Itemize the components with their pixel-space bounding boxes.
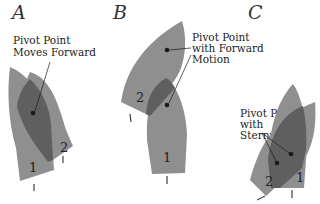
boat-label: 2 [136, 90, 144, 105]
caption-line: Motion [192, 53, 230, 65]
panel-letter: A [10, 1, 26, 23]
pivot-point-diagram: A Pivot Point Moves Forward 1 2 B Pivot … [0, 0, 320, 204]
panel-letter: B [112, 1, 127, 23]
caption-line: Moves Forward [13, 46, 96, 58]
boat-label: 1 [296, 170, 304, 185]
pivot-point-dot [31, 111, 36, 116]
boat-label: 2 [60, 140, 68, 155]
boat-label: 2 [265, 174, 273, 189]
pivot-point-dot [275, 161, 280, 166]
pivot-point-dot [165, 48, 170, 53]
panel-letter: C [248, 1, 263, 23]
caption-line: Pivot Point [13, 34, 71, 46]
panel-c: C Pivot Point with Sternway 2 1 [240, 1, 315, 200]
panel-b: B Pivot Point with Forward Motion 1 2 [112, 1, 264, 184]
pivot-point-dot [165, 103, 170, 108]
rudder-mark [257, 196, 265, 200]
boat-label: 1 [163, 150, 171, 165]
boat-label: 1 [29, 160, 37, 175]
pivot-point-dot [289, 152, 294, 157]
panel-a: A Pivot Point Moves Forward 1 2 [8, 1, 96, 191]
rudder-mark [130, 114, 131, 122]
